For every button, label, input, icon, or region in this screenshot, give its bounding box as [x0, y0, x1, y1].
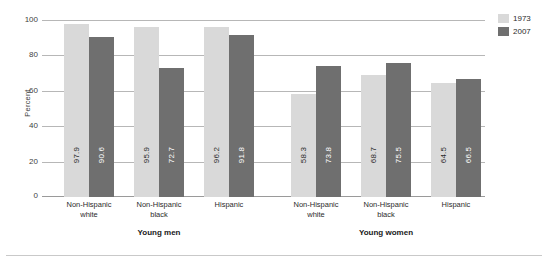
category-label: Hispanic — [184, 200, 274, 210]
legend-label: 1973 — [513, 15, 531, 23]
bar-value-label: 68.7 — [370, 147, 378, 163]
bar-series-container: 97.9 90.6 95.9 72.7 96.2 91.8 58.3 — [42, 20, 485, 197]
bar-value-label: 95.9 — [143, 147, 151, 163]
bar-2007[interactable]: 66.5 — [456, 79, 481, 197]
bar-chart-figure: Percent 100 80 60 40 20 0 97.9 90.6 — [0, 0, 548, 264]
bar-1973[interactable]: 58.3 — [291, 94, 316, 197]
bar-value-label: 58.3 — [300, 147, 308, 163]
bar-2007[interactable]: 75.5 — [386, 63, 411, 197]
figure-bottom-rule — [6, 255, 542, 256]
bar-1973[interactable]: 95.9 — [134, 27, 159, 197]
group-axis-labels: Young men Young women — [42, 228, 485, 242]
category-axis-labels: Non-Hispanic white Non-Hispanic black Hi… — [42, 200, 485, 226]
y-tick-label: 0 — [34, 192, 38, 200]
bar-1973[interactable]: 68.7 — [361, 75, 386, 197]
bar-value-label: 72.7 — [168, 147, 176, 163]
legend-swatch-icon — [498, 27, 509, 36]
bar-value-label: 97.9 — [73, 147, 81, 163]
legend: 1973 2007 — [498, 12, 546, 38]
bar-value-label: 91.8 — [238, 147, 246, 163]
category-label: Hispanic — [411, 200, 501, 210]
bar-2007[interactable]: 90.6 — [89, 37, 114, 197]
bar-1973[interactable]: 64.5 — [431, 83, 456, 197]
category-label-line1: Hispanic — [411, 200, 501, 210]
bar-value-label: 73.8 — [325, 147, 333, 163]
bar-1973[interactable]: 96.2 — [204, 27, 229, 197]
y-tick-label: 40 — [29, 122, 38, 130]
bar-2007[interactable]: 73.8 — [316, 66, 341, 197]
plot-area: 100 80 60 40 20 0 97.9 90.6 95.9 — [42, 20, 485, 197]
group-label-young-men: Young men — [64, 228, 254, 237]
bar-value-label: 96.2 — [213, 147, 221, 163]
y-tick-label: 60 — [29, 87, 38, 95]
bar-value-label: 75.5 — [395, 147, 403, 163]
legend-swatch-icon — [498, 14, 509, 23]
y-tick-label: 20 — [29, 158, 38, 166]
legend-item-2007[interactable]: 2007 — [498, 25, 546, 38]
category-label-line1: Hispanic — [184, 200, 274, 210]
category-label-line2: black — [341, 210, 431, 220]
bar-1973[interactable]: 97.9 — [64, 24, 89, 197]
bar-2007[interactable]: 72.7 — [159, 68, 184, 197]
bar-2007[interactable]: 91.8 — [229, 35, 254, 198]
bar-value-label: 66.5 — [465, 147, 473, 163]
legend-item-1973[interactable]: 1973 — [498, 12, 546, 25]
group-label-young-women: Young women — [291, 228, 481, 237]
y-tick-label: 100 — [25, 16, 38, 24]
bar-value-label: 64.5 — [440, 147, 448, 163]
bar-value-label: 90.6 — [98, 147, 106, 163]
legend-label: 2007 — [513, 28, 531, 36]
category-label-line2: black — [114, 210, 204, 220]
y-tick-label: 80 — [29, 51, 38, 59]
